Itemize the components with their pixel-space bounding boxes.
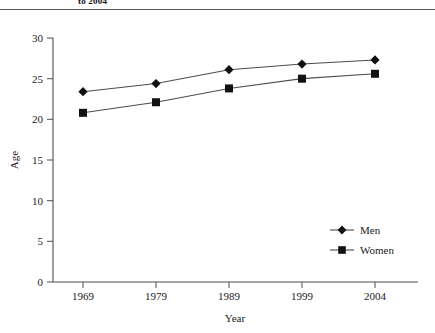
data-point-diamond-icon bbox=[297, 59, 306, 68]
x-tick-label-1969: 1969 bbox=[72, 290, 95, 302]
data-point-square-icon bbox=[371, 70, 379, 78]
x-axis-ticks bbox=[83, 282, 375, 288]
legend-label-men: Men bbox=[360, 224, 381, 236]
series-women bbox=[79, 70, 379, 117]
data-point-diamond-icon bbox=[370, 55, 379, 64]
legend-label-women: Women bbox=[360, 244, 394, 256]
y-tick-label-25: 25 bbox=[32, 73, 44, 85]
y-tick-label-30: 30 bbox=[32, 32, 44, 44]
line-chart: 0 5 10 15 20 25 30 Age 1969 1979 1989 19… bbox=[0, 12, 435, 333]
x-axis-title: Year bbox=[225, 312, 246, 324]
series-line-women bbox=[83, 74, 375, 113]
data-point-square-icon bbox=[298, 75, 306, 83]
y-tick-label-5: 5 bbox=[38, 235, 44, 247]
x-tick-label-1999: 1999 bbox=[291, 290, 314, 302]
y-tick-label-15: 15 bbox=[32, 154, 44, 166]
caption-divider-rule bbox=[0, 9, 435, 10]
legend: Men Women bbox=[330, 224, 394, 256]
figure-container: to 2004 0 5 10 15 20 25 30 Age bbox=[0, 0, 435, 333]
y-tick-label-20: 20 bbox=[32, 113, 44, 125]
y-tick-label-0: 0 bbox=[38, 276, 44, 288]
x-tick-label-1989: 1989 bbox=[218, 290, 241, 302]
x-tick-label-2004: 2004 bbox=[364, 290, 387, 302]
legend-marker-men-diamond-icon bbox=[338, 226, 347, 235]
data-point-square-icon bbox=[225, 84, 233, 92]
data-point-diamond-icon bbox=[78, 87, 87, 96]
data-point-diamond-icon bbox=[151, 79, 160, 88]
series-layer bbox=[78, 55, 379, 116]
y-axis-ticks bbox=[47, 38, 53, 282]
x-tick-label-1979: 1979 bbox=[145, 290, 168, 302]
data-point-diamond-icon bbox=[224, 65, 233, 74]
legend-marker-women-square-icon bbox=[338, 246, 346, 254]
data-point-square-icon bbox=[79, 109, 87, 117]
caption-fragment: to 2004 bbox=[78, 0, 107, 6]
data-point-square-icon bbox=[152, 98, 160, 106]
y-tick-label-10: 10 bbox=[32, 195, 44, 207]
y-axis-title: Age bbox=[8, 151, 20, 169]
